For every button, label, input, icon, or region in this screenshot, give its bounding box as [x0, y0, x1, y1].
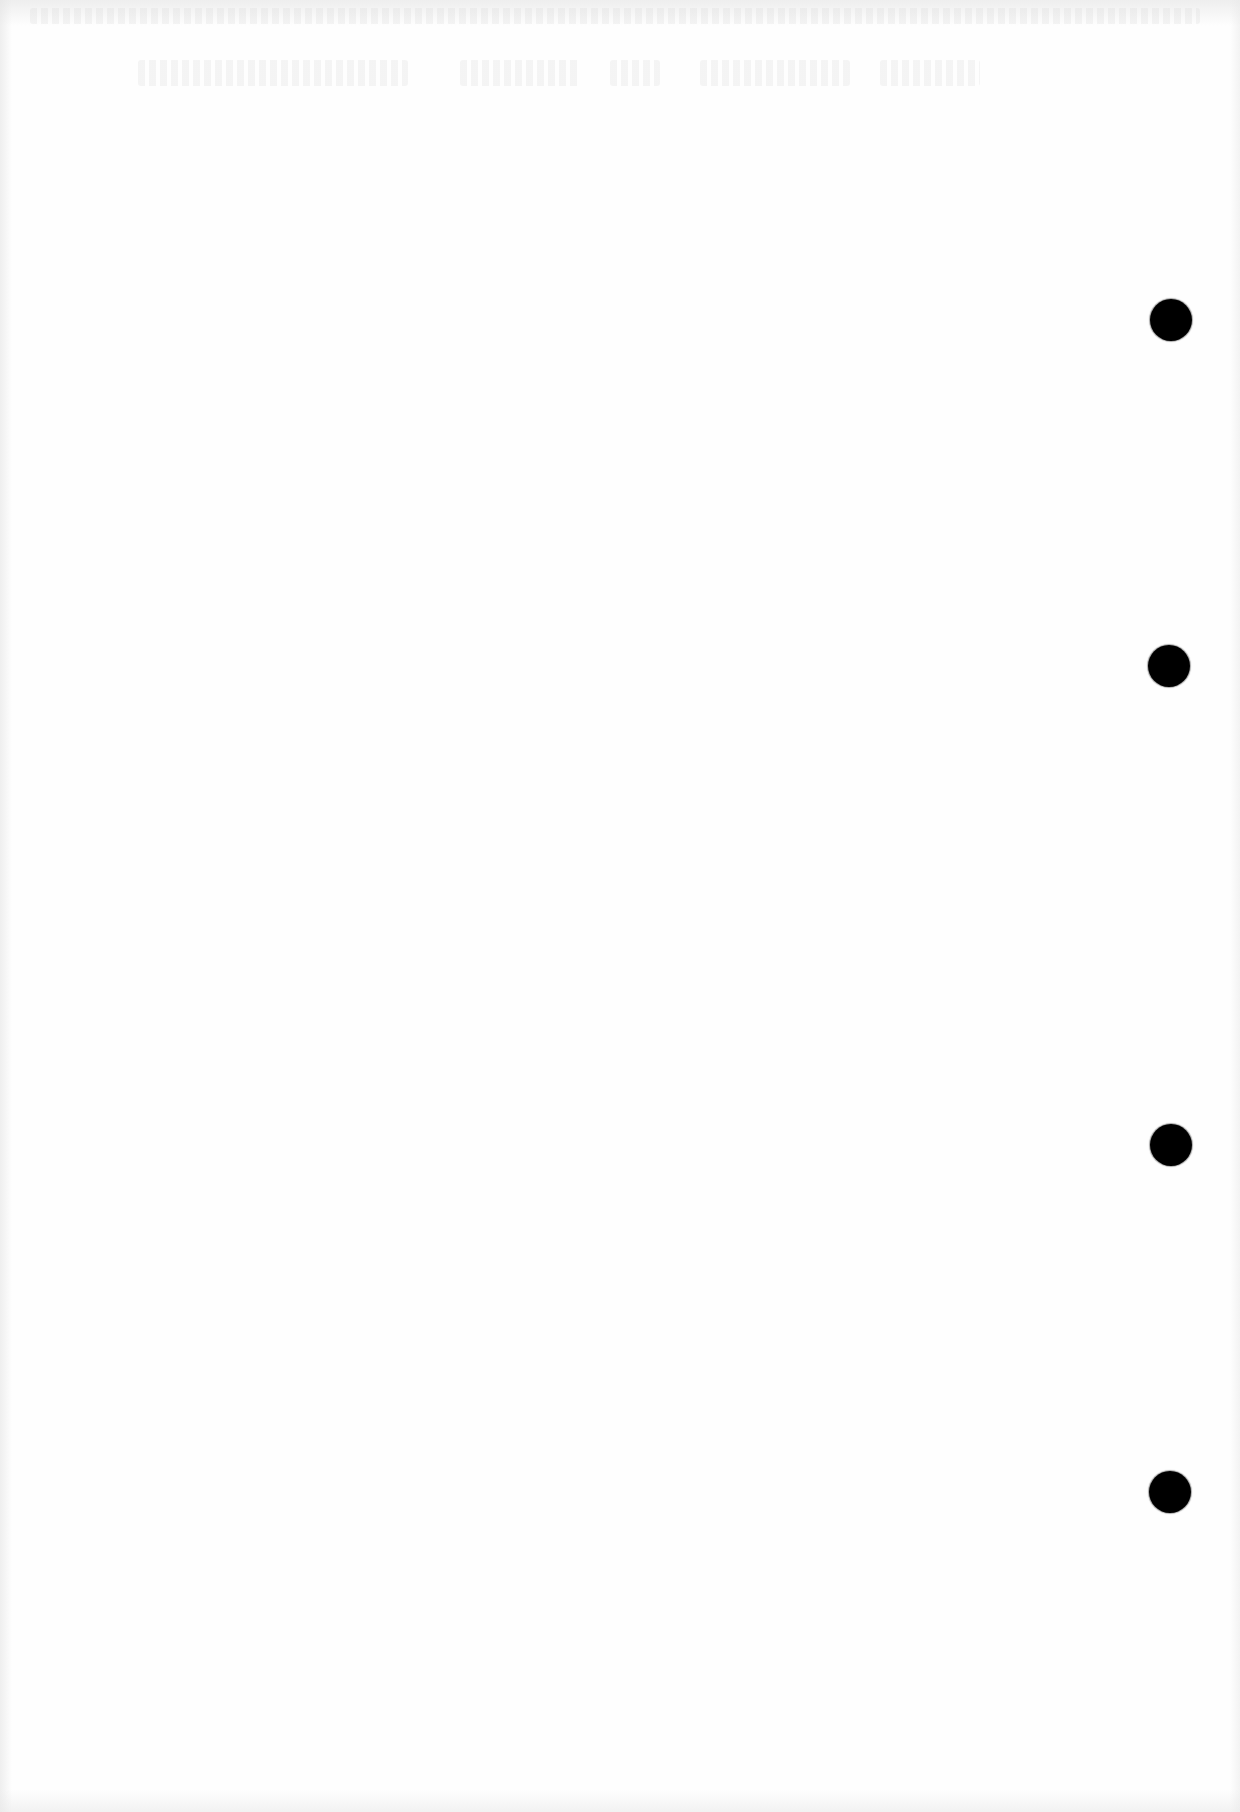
- show-through-text: [880, 60, 980, 86]
- scan-shadow-left: [0, 0, 12, 1812]
- punch-hole-icon: [1150, 299, 1192, 341]
- scan-shadow-right: [1230, 0, 1240, 1812]
- show-through-text: [700, 60, 850, 86]
- punch-hole-icon: [1149, 1471, 1191, 1513]
- show-through-text: [610, 60, 660, 86]
- show-through-text: [138, 60, 408, 86]
- scan-shadow-bottom: [0, 1790, 1240, 1812]
- punch-hole-icon: [1150, 1124, 1192, 1166]
- punch-hole-icon: [1148, 645, 1190, 687]
- scanned-page: [0, 0, 1240, 1812]
- show-through-text: [30, 8, 1200, 24]
- show-through-text: [460, 60, 580, 86]
